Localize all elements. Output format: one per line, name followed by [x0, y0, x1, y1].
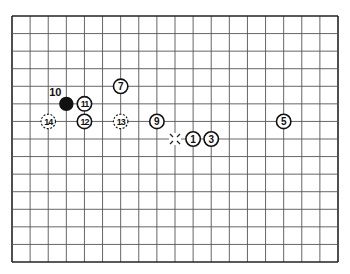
stone-7: 7 [113, 79, 127, 93]
stone-11: 11 [77, 97, 91, 111]
stone-5: 5 [276, 114, 290, 128]
go-board: 135791011121314 [0, 0, 350, 274]
stone-label: 3 [208, 134, 214, 145]
stone-12: 12 [77, 114, 91, 128]
stone-label: 9 [154, 116, 160, 127]
stone-label: 1 [190, 134, 196, 145]
stone-13: 13 [113, 114, 127, 128]
stone-label: 11 [81, 99, 90, 109]
stone-10: 10 [49, 86, 73, 111]
board-markers [169, 133, 181, 145]
stone-label: 5 [281, 116, 287, 127]
stone-1: 1 [186, 132, 200, 146]
stone-label: 12 [80, 117, 89, 127]
stone-3: 3 [204, 132, 218, 146]
black-stone-icon [59, 97, 73, 111]
stone-14: 14 [41, 114, 55, 128]
stone-label: 14 [44, 117, 53, 127]
stone-label: 13 [117, 117, 126, 127]
stone-label: 10 [49, 86, 61, 98]
board-stones: 135791011121314 [41, 79, 291, 146]
stone-9: 9 [150, 114, 164, 128]
stone-label: 7 [118, 81, 124, 92]
